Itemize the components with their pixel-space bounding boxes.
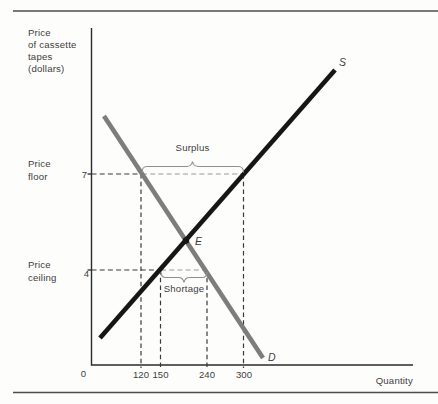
demand-curve-label: D	[268, 351, 276, 363]
origin-label: 0	[81, 368, 86, 379]
y-axis-title-line-2: of cassette	[28, 39, 77, 50]
price-ceiling-label-line-1: Price	[28, 259, 51, 270]
x-tick-label-120: 120	[133, 369, 149, 380]
equilibrium-label: E	[195, 235, 203, 247]
supply-curve-label: S	[339, 56, 346, 68]
y-axis-title-line-3: tapes	[28, 51, 52, 62]
shortage-annotation: Shortage	[164, 283, 205, 294]
x-axis-title: Quantity	[376, 375, 413, 386]
y-tick-label-7: 7	[82, 169, 87, 180]
price-floor-label-line-2: floor	[28, 171, 48, 182]
y-axis-title-line-1: Price	[28, 27, 51, 38]
price-floor-label-line-1: Price	[28, 158, 51, 169]
x-tick-label-300: 300	[236, 369, 252, 380]
x-tick-label-240: 240	[199, 369, 215, 380]
chart-canvas: Price of cassette tapes (dollars) Price …	[0, 0, 438, 404]
x-tick-label-150: 150	[152, 369, 168, 380]
y-tick-label-4: 4	[84, 268, 90, 279]
equilibrium-point	[183, 237, 189, 243]
surplus-annotation: Surplus	[176, 142, 210, 153]
y-axis-title-line-4: (dollars)	[28, 63, 64, 74]
price-ceiling-label-line-2: ceiling	[28, 272, 57, 283]
supply-demand-figure: Price of cassette tapes (dollars) Price …	[0, 0, 438, 404]
